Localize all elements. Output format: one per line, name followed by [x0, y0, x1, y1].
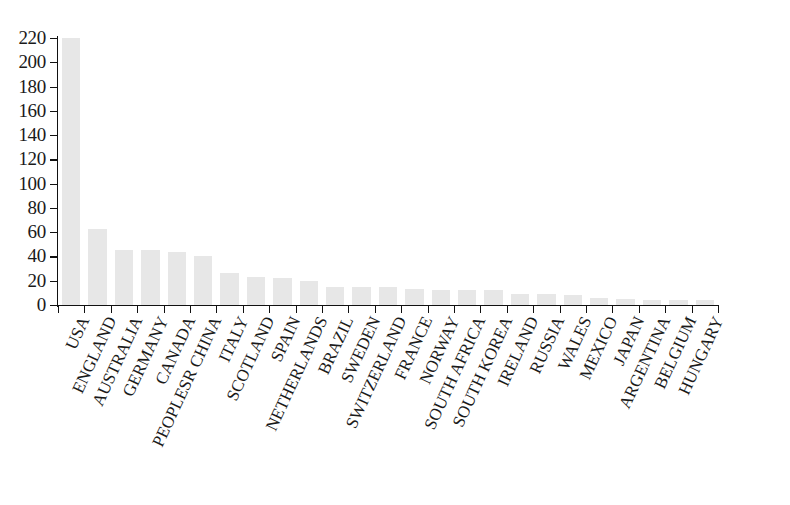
- x-axis-tick: [665, 306, 666, 313]
- x-axis-tick: [243, 306, 244, 313]
- bar: [352, 287, 370, 305]
- x-axis-tick-label: ITALY: [215, 314, 251, 365]
- y-axis-tick-label: 120: [18, 149, 46, 168]
- x-axis-tick-label: NORWAY: [416, 314, 462, 387]
- x-axis-tick: [480, 306, 481, 313]
- y-axis-tick-label: 20: [28, 271, 46, 290]
- y-axis-tick: [50, 232, 58, 233]
- x-axis-tick-label: PEOPLESR CHINA: [150, 314, 225, 449]
- y-axis-tick-label: 140: [18, 125, 46, 144]
- bar: [141, 250, 159, 305]
- x-axis-tick: [296, 306, 297, 313]
- y-axis-tick: [50, 38, 58, 39]
- x-axis-tick-label: BELGIUM: [652, 314, 700, 391]
- x-axis-tick-label: SOUTH KOREA: [449, 314, 515, 429]
- x-axis-tick-label: WALES: [555, 314, 594, 373]
- y-axis-tick: [50, 184, 58, 185]
- y-axis-tick-label: 40: [28, 246, 46, 265]
- bar: [273, 278, 291, 305]
- x-axis-tick-label: SPAIN: [268, 314, 304, 364]
- bar: [458, 290, 476, 305]
- bar: [590, 298, 608, 305]
- y-axis-tick: [50, 159, 58, 160]
- x-axis-tick: [58, 306, 59, 313]
- x-axis-tick-label: CANADA: [152, 314, 198, 387]
- bar: [669, 300, 687, 305]
- bar: [405, 289, 423, 305]
- bar: [616, 299, 634, 305]
- y-axis-tick-label: 180: [18, 77, 46, 96]
- bar: [168, 252, 186, 305]
- x-axis-tick: [718, 306, 719, 313]
- x-axis-tick-label: HUNGARY: [675, 314, 726, 397]
- x-axis-tick: [454, 306, 455, 313]
- x-axis-tick: [428, 306, 429, 313]
- bar: [247, 277, 265, 305]
- bar: [696, 300, 714, 305]
- y-axis-tick-label: 160: [18, 101, 46, 120]
- x-axis-tick-label: GERMANY: [120, 314, 172, 399]
- x-axis-tick-label: SCOTLAND: [224, 314, 278, 403]
- x-axis-tick-label: RUSSIA: [527, 314, 568, 376]
- x-axis-tick: [533, 306, 534, 313]
- y-axis-tick-label: 60: [28, 222, 46, 241]
- bar: [484, 290, 502, 305]
- bar: [432, 290, 450, 305]
- x-axis-tick: [639, 306, 640, 313]
- x-axis-tick-label: SWEDEN: [338, 314, 383, 385]
- x-axis-tick: [216, 306, 217, 313]
- y-axis-tick: [50, 208, 58, 209]
- x-axis-tick: [111, 306, 112, 313]
- x-axis-tick-label: SOUTH AFRICA: [421, 314, 488, 432]
- y-axis-tick: [50, 256, 58, 257]
- x-axis-tick-label: USA: [63, 314, 93, 352]
- x-axis-tick-label: BRAZIL: [315, 314, 356, 377]
- bar: [115, 250, 133, 305]
- x-axis-tick-label: NETHERLANDS: [263, 314, 331, 433]
- x-axis-tick-label: IRELAND: [494, 314, 541, 389]
- x-axis-tick: [269, 306, 270, 313]
- y-axis-tick-label: 100: [18, 174, 46, 193]
- bar: [643, 300, 661, 305]
- x-axis-tick: [137, 306, 138, 313]
- x-axis-tick: [84, 306, 85, 313]
- x-axis-tick-label: ARGENTINA: [616, 314, 673, 411]
- bar-chart: 020406080100120140160180200220 USAENGLAN…: [0, 0, 790, 505]
- x-axis-tick: [560, 306, 561, 313]
- y-axis-tick: [50, 87, 58, 88]
- y-axis-tick: [50, 281, 58, 282]
- y-axis-tick-label: 0: [37, 295, 46, 314]
- y-axis-tick: [50, 62, 58, 63]
- bar: [194, 256, 212, 305]
- bar: [220, 273, 238, 305]
- y-axis-tick: [50, 135, 58, 136]
- y-axis-tick-label: 220: [18, 28, 46, 47]
- x-axis-tick: [322, 306, 323, 313]
- y-axis-tick-label: 80: [28, 198, 46, 217]
- x-axis-tick: [190, 306, 191, 313]
- x-axis-tick-label: JAPAN: [610, 314, 647, 368]
- x-axis-tick-label: MEXICO: [577, 314, 621, 382]
- bar: [537, 294, 555, 305]
- x-axis-tick-label: AUSTRALIA: [89, 314, 145, 409]
- x-axis-tick: [164, 306, 165, 313]
- bar: [300, 281, 318, 305]
- x-axis-tick-label: FRANCE: [392, 314, 436, 382]
- x-axis-tick: [612, 306, 613, 313]
- x-axis-tick: [348, 306, 349, 313]
- bar: [564, 295, 582, 305]
- bar: [62, 38, 80, 305]
- x-axis-line: [57, 305, 719, 306]
- y-axis-tick: [50, 111, 58, 112]
- x-axis-tick-label: ENGLAND: [69, 314, 119, 396]
- x-axis-tick: [401, 306, 402, 313]
- y-axis-tick-label: 200: [18, 52, 46, 71]
- x-axis-tick: [375, 306, 376, 313]
- x-axis-tick: [692, 306, 693, 313]
- x-axis-tick: [586, 306, 587, 313]
- x-axis-tick-label: SWITZERLAND: [343, 314, 409, 431]
- bar: [326, 287, 344, 305]
- x-axis-tick: [507, 306, 508, 313]
- bar: [511, 294, 529, 305]
- bar-series: [58, 38, 718, 305]
